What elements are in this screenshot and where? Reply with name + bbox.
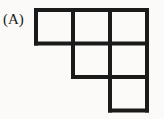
figure-panel: (A) [0, 0, 164, 119]
polyomino-diagram [0, 0, 164, 119]
